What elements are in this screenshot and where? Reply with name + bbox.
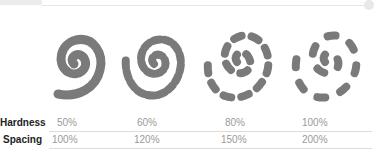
spiral-stroke-dashed-icon [110, 14, 200, 110]
brush-sample-hardness-100 [283, 14, 373, 110]
hardness-values: 50% 60% 80% 100% [49, 114, 372, 132]
hardness-label: Hardness [0, 117, 42, 128]
spacing-values: 100% 120% 150% 200% [49, 131, 372, 149]
hardness-value: 80% [225, 117, 245, 128]
brush-sample-hardness-50 [28, 14, 118, 110]
header-tab [0, 0, 42, 5]
spacing-value: 120% [134, 134, 160, 145]
hardness-row: Hardness 50% 60% 80% 100% [0, 114, 390, 132]
brush-samples [0, 14, 390, 110]
spacing-value: 200% [302, 134, 328, 145]
spacing-value: 150% [221, 134, 247, 145]
brush-sample-hardness-60 [110, 14, 200, 110]
spiral-stroke-sparse-icon [195, 14, 285, 110]
spiral-stroke-continuous-icon [28, 14, 118, 110]
hardness-value: 100% [302, 117, 328, 128]
slider-track[interactable] [42, 5, 368, 6]
spacing-label: Spacing [0, 134, 42, 145]
spacing-value: 100% [52, 134, 78, 145]
hardness-value: 60% [137, 117, 157, 128]
spiral-stroke-very-sparse-icon [283, 14, 373, 110]
hardness-value: 50% [57, 117, 77, 128]
brush-sample-hardness-80 [195, 14, 285, 110]
spacing-row: Spacing 100% 120% 150% 200% [0, 131, 390, 149]
slider-knob[interactable] [364, 0, 374, 10]
